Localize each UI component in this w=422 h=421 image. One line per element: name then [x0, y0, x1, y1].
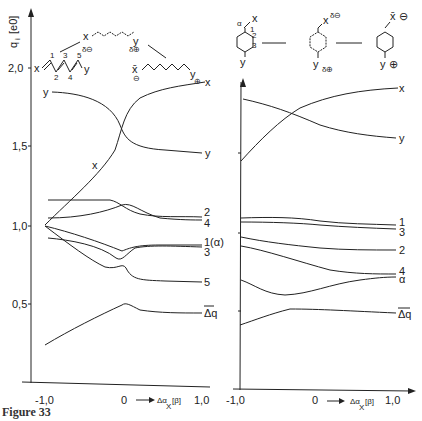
left-label-x-mid: x: [92, 159, 98, 171]
figure-canvas: 2,0 1,5 1,0 0,5 q i [e0] -1,0 0 1,0 Δα X…: [0, 0, 422, 421]
svg-text:x: x: [83, 30, 89, 42]
svg-text:x: x: [323, 14, 329, 26]
left-label-y: y: [43, 86, 49, 98]
right-curve-alpha: [241, 277, 396, 295]
right-curve-2: [241, 237, 396, 250]
svg-text:i: i: [13, 38, 22, 40]
right-label-dq: Δq: [398, 308, 411, 320]
left-arrow-right-icon: [149, 397, 155, 403]
right-label-y: y: [399, 132, 405, 144]
svg-text:α: α: [237, 19, 242, 28]
svg-text:y: y: [240, 56, 246, 68]
left-curve-x: [45, 82, 205, 225]
svg-text:2: 2: [54, 73, 59, 82]
left-curve-4: [48, 204, 202, 220]
right-curve-3: [241, 222, 396, 229]
right-curve-y: [243, 99, 396, 138]
left-curve-1: [45, 226, 202, 251]
left-label-y-end: y: [205, 147, 211, 159]
right-label-3: 3: [399, 226, 405, 238]
svg-text:4: 4: [68, 73, 73, 82]
left-ytick-1-5: 1,5: [12, 140, 27, 152]
figure-caption: Figure 33: [2, 405, 51, 420]
left-panel: 2,0 1,5 1,0 0,5 q i [e0] -1,0 0 1,0 Δα X…: [7, 8, 224, 411]
left-ytick-2-0: 2,0: [8, 62, 23, 74]
right-label-2: 2: [399, 244, 405, 256]
left-ytick-0-5: 0,5: [12, 298, 27, 310]
left-molecule-intermediate: x δ⊖ y δ⊕: [82, 30, 140, 54]
svg-text:x: x: [34, 62, 40, 74]
left-label-dq: Δq: [204, 307, 217, 319]
right-x-axis: [233, 389, 412, 391]
resonance-arrow-2: [148, 45, 166, 58]
right-x-axis-arrow-icon: [408, 388, 416, 394]
svg-text:[e0]: [e0]: [7, 16, 19, 34]
left-y-axis-arrow-icon: [28, 8, 34, 17]
svg-text:x: x: [252, 12, 258, 24]
svg-text:1: 1: [250, 25, 255, 34]
left-curve-2: [48, 200, 202, 217]
right-xtick-m1: -1,0: [226, 394, 245, 406]
svg-text:δ⊕: δ⊕: [322, 65, 333, 74]
svg-text:δ⊖: δ⊖: [82, 45, 93, 54]
left-ytick-1-0: 1,0: [12, 220, 27, 232]
svg-text:δ⊕: δ⊕: [129, 45, 140, 54]
left-label-5: 5: [204, 276, 210, 288]
right-arrow-right-icon: [339, 398, 345, 404]
svg-text:y ⊕: y ⊕: [380, 58, 398, 70]
left-label-3: 3: [204, 246, 210, 258]
svg-text:⊖: ⊖: [133, 74, 140, 83]
right-xtick-0: 0: [312, 394, 318, 406]
left-curve-dq: [45, 304, 202, 345]
right-xtick-p1: 1,0: [385, 394, 400, 406]
left-label-x: x: [205, 76, 211, 88]
svg-text:x̄ ⊖: x̄ ⊖: [390, 10, 408, 22]
right-molecule-quinoid-1: α x 2 1 3 y: [237, 12, 258, 68]
left-curve-5: [45, 226, 202, 282]
right-molecule-quinoid-3: x̄ ⊖ y ⊕: [377, 10, 408, 70]
right-curve-1: [241, 217, 396, 225]
left-curve-y: [52, 92, 202, 153]
right-y-axis: [240, 82, 241, 390]
svg-text:y: y: [313, 58, 319, 70]
svg-text:1: 1: [50, 51, 55, 60]
svg-text:[β]: [β]: [172, 396, 181, 405]
left-molecule-neutral: x 1 2 3 4 5 y: [34, 51, 90, 82]
svg-text:⊕: ⊕: [194, 77, 201, 86]
svg-text:3: 3: [63, 51, 68, 60]
right-label-x: x: [399, 82, 405, 94]
svg-text:q: q: [7, 42, 19, 48]
svg-text:δ⊖: δ⊖: [330, 11, 341, 20]
left-x-axis: [22, 382, 210, 387]
left-xtick-p1: 1,0: [194, 394, 209, 406]
svg-text:y: y: [84, 63, 90, 75]
left-label-4: 4: [204, 217, 210, 229]
left-y-label: q i [e0]: [7, 16, 22, 48]
svg-text:3: 3: [252, 41, 257, 50]
left-molecule-zwitterion: x̄ ⊖ y ⊕: [132, 63, 201, 86]
right-label-alpha: α: [399, 273, 406, 285]
right-curve-dq: [240, 309, 396, 325]
svg-text:[β]: [β]: [365, 397, 374, 406]
right-panel: -1,0 0 1,0 Δα X [β] x y 1 3 2 4 α Δq α x: [226, 10, 416, 412]
left-curve-3: [48, 238, 202, 259]
left-xtick-0: 0: [121, 394, 127, 406]
